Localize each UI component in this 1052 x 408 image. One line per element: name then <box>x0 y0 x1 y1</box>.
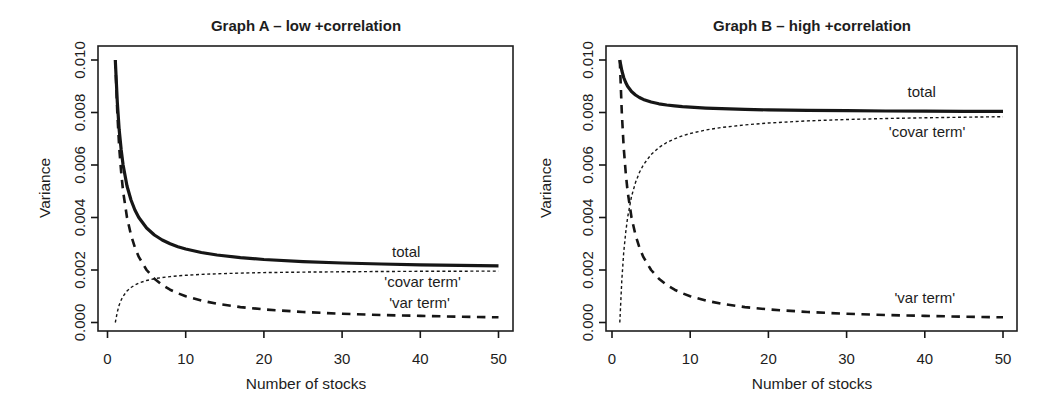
y-tick-label: 0.010 <box>579 41 596 79</box>
x-tick-label: 10 <box>177 350 194 367</box>
graph-a-total-label: total <box>392 243 420 260</box>
graph-b-covar-term-label: 'covar term' <box>889 123 966 140</box>
graph-a-x-axis-label: Number of stocks <box>246 375 367 392</box>
graph-b-panel: Graph B – high +correlation Variance Num… <box>537 17 1017 392</box>
y-tick-label: 0.006 <box>71 146 88 184</box>
x-tick-label: 40 <box>916 350 933 367</box>
y-tick-label: 0.006 <box>579 146 596 184</box>
y-tick-label: 0.004 <box>579 199 596 237</box>
figure-canvas: Graph A – low +correlation Variance Numb… <box>0 0 1052 408</box>
x-tick-label: 30 <box>334 350 351 367</box>
graph-b-x-axis-label: Number of stocks <box>752 375 873 392</box>
y-tick-label: 0.008 <box>71 94 88 132</box>
y-tick-label: 0.002 <box>579 251 596 289</box>
graph-a-y-axis-label: Variance <box>36 158 53 218</box>
graph-a-axis-ticks: 010203040500.0000.0020.0040.0060.0080.01… <box>71 41 507 367</box>
graph-b-y-axis-label: Variance <box>537 158 554 218</box>
x-tick-label: 30 <box>838 350 855 367</box>
y-tick-label: 0.004 <box>71 199 88 237</box>
x-tick-label: 10 <box>682 350 699 367</box>
y-tick-label: 0.000 <box>579 304 596 342</box>
y-tick-label: 0.002 <box>71 251 88 289</box>
graph-a-title: Graph A – low +correlation <box>211 17 401 34</box>
y-tick-label: 0.000 <box>71 304 88 342</box>
x-tick-label: 20 <box>256 350 273 367</box>
graph-b-title: Graph B – high +correlation <box>713 17 911 34</box>
graph-b-plot-frame <box>606 46 1017 331</box>
graph-a-covar-term-label: 'covar term' <box>384 273 461 290</box>
x-tick-label: 20 <box>760 350 777 367</box>
graph-a-panel: Graph A – low +correlation Variance Numb… <box>36 17 513 392</box>
graph-a-var-term-label: 'var term' <box>389 294 450 311</box>
graph-b-series-lines <box>620 60 1003 323</box>
x-tick-label: 40 <box>412 350 429 367</box>
y-tick-label: 0.010 <box>71 41 88 79</box>
x-tick-label: 50 <box>995 350 1012 367</box>
graph-b-axis-ticks: 010203040500.0000.0020.0040.0060.0080.01… <box>579 41 1011 367</box>
graph-b-total-label: total <box>908 83 936 100</box>
total-curve <box>620 60 1003 111</box>
x-tick-label: 50 <box>490 350 507 367</box>
x-tick-label: 0 <box>608 350 616 367</box>
y-tick-label: 0.008 <box>579 94 596 132</box>
var-term-curve <box>620 60 1003 317</box>
graph-b-var-term-label: 'var term' <box>894 289 955 306</box>
portfolio-variance-figure: Graph A – low +correlation Variance Numb… <box>0 0 1052 408</box>
total-curve <box>115 60 498 266</box>
x-tick-label: 0 <box>103 350 111 367</box>
